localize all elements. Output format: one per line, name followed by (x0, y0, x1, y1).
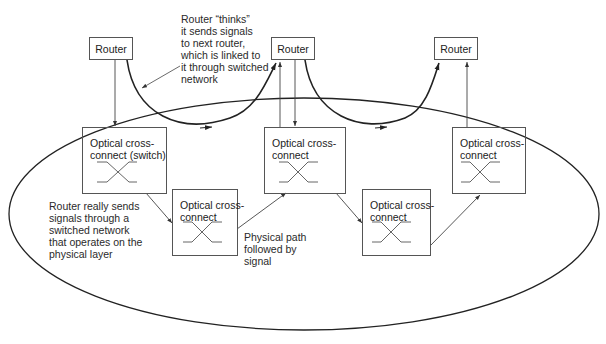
optical-cross-connect-5: Optical cross- connect (452, 127, 526, 194)
logical-link-2-3 (305, 60, 439, 124)
router-2: Router (271, 37, 315, 60)
path-oxc4-to-oxc5 (430, 195, 480, 246)
logical-link-mid-arrow-1 (200, 127, 212, 128)
router-label: Router (440, 43, 472, 55)
router-1: Router (89, 37, 133, 60)
oxc-label: Optical cross- connect (180, 199, 244, 223)
path-oxc3-to-oxc4 (336, 193, 362, 223)
oxc-label: Optical cross- connect (460, 137, 524, 161)
logical-link-mid-arrow-2 (375, 127, 387, 128)
annotation-router-thinks: Router “thinks” it sends signals to next… (181, 13, 269, 85)
oxc-label: Optical cross- connect (370, 199, 434, 223)
optical-cross-connect-3: Optical cross- connect (264, 127, 346, 194)
annotation-physical-path: Physical path followed by signal (244, 231, 306, 267)
annotation-pointer (142, 66, 180, 88)
oxc-label: Optical cross- connect (switch) (90, 137, 166, 161)
path-oxc2-to-oxc3 (237, 193, 286, 229)
router-label: Router (95, 43, 127, 55)
path-oxc1-to-oxc2 (146, 193, 172, 223)
optical-cross-connect-2: Optical cross- connect (172, 189, 238, 256)
optical-cross-connect-1: Optical cross- connect (switch) (82, 127, 167, 194)
router-3: Router (434, 37, 478, 60)
annotation-router-really: Router really sends signals through a sw… (49, 200, 142, 260)
router-label: Router (277, 43, 309, 55)
optical-cross-connect-4: Optical cross- connect (362, 189, 431, 256)
oxc-label: Optical cross- connect (272, 137, 336, 161)
